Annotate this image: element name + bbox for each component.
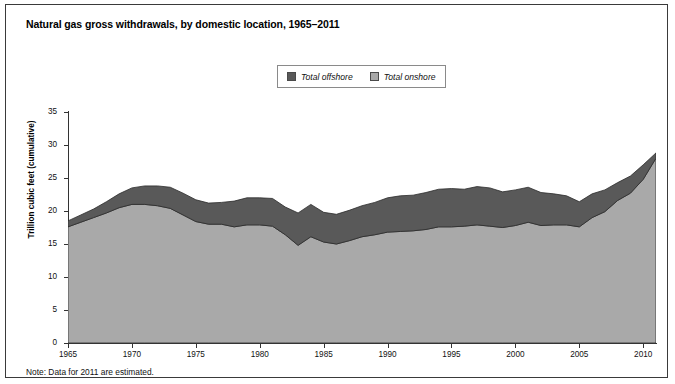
x-tick-mark [68, 344, 69, 348]
figure-panel: Natural gas gross withdrawals, by domest… [5, 4, 668, 378]
x-tick-label: 1995 [431, 350, 471, 359]
legend-item-onshore[interactable]: Total onshore [370, 72, 436, 82]
y-tick-mark [64, 310, 68, 311]
plot-area [68, 112, 656, 343]
x-tick-mark [324, 344, 325, 348]
y-tick-label: 25 [31, 173, 57, 182]
y-tick-label: 20 [31, 206, 57, 215]
area-chart-svg [68, 112, 656, 343]
legend-label-onshore: Total onshore [384, 72, 436, 82]
x-tick-label: 2005 [559, 350, 599, 359]
x-tick-mark [451, 344, 452, 348]
x-tick-label: 1970 [112, 350, 152, 359]
y-tick-mark [64, 178, 68, 179]
x-axis-line [68, 343, 657, 344]
chart-note: Note: Data for 2011 are estimated. [26, 367, 154, 377]
chart-legend: Total offshore Total onshore [277, 65, 446, 88]
y-tick-mark [64, 145, 68, 146]
y-tick-mark [64, 112, 68, 113]
x-tick-mark [579, 344, 580, 348]
y-tick-mark [64, 244, 68, 245]
x-tick-mark [388, 344, 389, 348]
y-tick-mark [64, 211, 68, 212]
y-tick-label: 5 [31, 305, 57, 314]
x-tick-label: 1985 [304, 350, 344, 359]
y-tick-label: 10 [31, 272, 57, 281]
legend-swatch-offshore [287, 72, 296, 81]
x-tick-label: 2010 [623, 350, 663, 359]
x-tick-label: 1965 [48, 350, 88, 359]
y-tick-label: 0 [31, 338, 57, 347]
legend-label-offshore: Total offshore [301, 72, 353, 82]
y-tick-label: 30 [31, 140, 57, 149]
y-tick-mark [64, 277, 68, 278]
x-tick-label: 1980 [240, 350, 280, 359]
y-tick-label: 35 [31, 107, 57, 116]
x-tick-label: 2000 [495, 350, 535, 359]
x-tick-mark [515, 344, 516, 348]
legend-swatch-onshore [370, 72, 379, 81]
chart-title: Natural gas gross withdrawals, by domest… [26, 18, 340, 30]
legend-item-offshore[interactable]: Total offshore [287, 72, 353, 82]
x-tick-label: 1975 [176, 350, 216, 359]
x-tick-mark [260, 344, 261, 348]
x-tick-mark [196, 344, 197, 348]
x-tick-mark [132, 344, 133, 348]
x-tick-label: 1990 [368, 350, 408, 359]
x-tick-mark [643, 344, 644, 348]
y-tick-label: 15 [31, 239, 57, 248]
